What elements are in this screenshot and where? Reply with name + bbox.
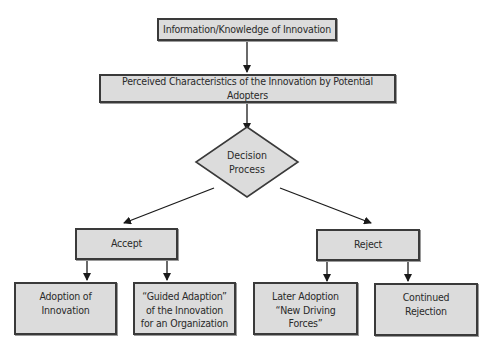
adoption-of-innovation-label: Adoption of Innovation: [16, 284, 115, 317]
reject-label: Reject: [354, 238, 382, 252]
info-knowledge-box: Information/Knowledge of Innovation: [157, 18, 337, 41]
arrow-decision-to-reject: [280, 188, 371, 223]
accept-label: Accept: [111, 237, 142, 251]
later-adoption-label: Later Adoption “New Driving Forces”: [255, 284, 356, 331]
guided-adaption-label: “Guided Adaption” of the Innovation for …: [135, 284, 234, 331]
perceived-characteristics-label: Perceived Characteristics of the Innovat…: [101, 75, 394, 102]
info-knowledge-label: Information/Knowledge of Innovation: [163, 23, 331, 37]
arrow-decision-to-accept: [124, 188, 214, 223]
continued-rejection-box: Continued Rejection: [374, 283, 478, 336]
later-adoption-box: Later Adoption “New Driving Forces”: [253, 282, 358, 335]
decision-process-label: Decision Process: [212, 149, 282, 176]
accept-box: Accept: [75, 228, 178, 260]
adoption-of-innovation-box: Adoption of Innovation: [14, 282, 117, 335]
perceived-characteristics-box: Perceived Characteristics of the Innovat…: [99, 74, 396, 103]
continued-rejection-label: Continued Rejection: [376, 285, 476, 318]
reject-box: Reject: [316, 229, 420, 261]
guided-adaption-box: “Guided Adaption” of the Innovation for …: [133, 282, 236, 335]
flowchart-canvas: Information/Knowledge of Innovation Perc…: [0, 0, 495, 351]
